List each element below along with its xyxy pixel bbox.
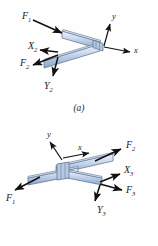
axis-label-x-a: x — [133, 45, 138, 55]
panel-b-svg: F1 F2 X3 F3 Y3 y x — [0, 120, 158, 246]
joint-b — [57, 162, 69, 180]
force-arrow-f1-a — [33, 20, 62, 33]
force-arrow-y3-b — [95, 185, 100, 201]
force-label-f2-b: F2 — [125, 139, 136, 152]
axis-arrow-x-a — [104, 47, 130, 52]
axis-arrow-x-b — [63, 153, 89, 158]
bar-lower-a — [44, 42, 100, 68]
force-label-f3-b: F3 — [125, 184, 136, 197]
diagram-panel-b: F1 F2 X3 F3 Y3 y x (b) — [0, 120, 158, 246]
axis-label-y-b: y — [46, 129, 51, 139]
panel-a-caption: (a) — [0, 103, 158, 113]
force-label-x2-a: X2 — [27, 40, 38, 53]
figure-container: F1 X2 F2 Y2 y x (a) — [0, 0, 158, 246]
axis-arrow-y-a — [104, 24, 110, 46]
force-label-f2-a: F2 — [19, 57, 30, 70]
force-arrow-f3-b — [100, 184, 122, 190]
force-arrow-x2-a — [40, 50, 58, 52]
axis-arrow-y-b — [50, 142, 62, 160]
force-label-f1-b: F1 — [5, 192, 15, 205]
force-arrow-x3-b — [100, 174, 120, 182]
force-label-x3-b: X3 — [123, 164, 134, 177]
diagram-panel-a: F1 X2 F2 Y2 y x (a) — [0, 0, 158, 123]
axis-label-x-b: x — [77, 142, 82, 152]
force-label-f1-a: F1 — [21, 10, 31, 23]
force-label-y3-b: Y3 — [97, 204, 107, 217]
force-label-y2-a: Y2 — [44, 80, 54, 93]
axis-label-y-a: y — [111, 11, 116, 21]
